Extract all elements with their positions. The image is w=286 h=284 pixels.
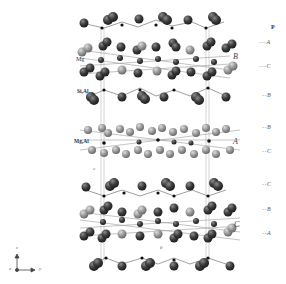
stacking-item: ---A	[259, 39, 270, 45]
label-layer-C: C	[234, 220, 239, 229]
stacking-item: --C	[262, 181, 271, 187]
label-cell-c: c	[93, 166, 95, 171]
apical-oxygen-row-bottom	[82, 178, 224, 192]
layer-top-B	[78, 12, 238, 105]
stacking-item: --C	[262, 148, 271, 154]
label-layer-A: A	[233, 137, 238, 146]
axis-label-y: y	[39, 266, 41, 271]
label-layer-B: B	[233, 52, 238, 61]
label-mg-site: Mg	[76, 56, 84, 62]
stacking-item: --A	[262, 230, 271, 236]
interlayer-lower-row	[88, 146, 234, 158]
stacking-item: --B	[262, 92, 271, 98]
axis-label-z: z	[16, 245, 18, 250]
interlayer-upper-row	[84, 123, 230, 137]
octahedral-oxygens-upper	[78, 38, 237, 57]
stacking-header: P	[271, 24, 275, 30]
stacking-item: --B	[262, 124, 271, 130]
label-si-al-site: Si,Al	[77, 88, 88, 94]
layer-bottom-C	[80, 178, 241, 271]
axes-triad	[15, 254, 35, 272]
label-cell-b: b	[160, 245, 163, 250]
crystal-structure-diagram	[0, 0, 286, 284]
stacking-item: --B	[262, 206, 271, 212]
axis-label-x: x	[9, 266, 11, 271]
label-mg-al-site: Mg,Al	[74, 138, 89, 144]
stacking-item: ---C	[259, 63, 271, 69]
octahedral-oxygens-upper-bottom	[80, 202, 237, 219]
